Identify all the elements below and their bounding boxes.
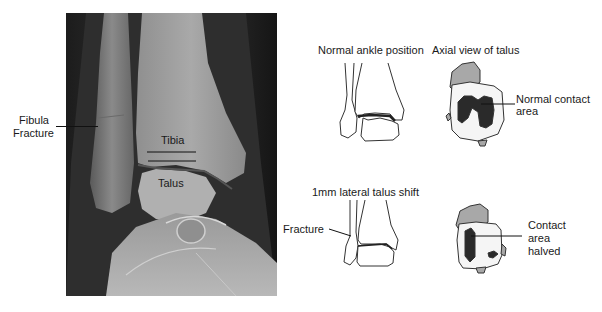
halved-contact-label-line2: area bbox=[528, 232, 550, 245]
normal-ankle-title: Normal ankle position bbox=[318, 44, 424, 57]
axial-talus-normal-drawing bbox=[446, 62, 515, 146]
halved-contact-label-line1: Contact bbox=[528, 219, 566, 232]
shifted-ankle-drawing bbox=[329, 200, 398, 266]
axial-talus-halved-drawing bbox=[456, 204, 522, 273]
normal-ankle-drawing bbox=[340, 63, 404, 141]
halved-contact-label-line3: halved bbox=[528, 245, 560, 258]
shifted-ankle-title: 1mm lateral talus shift bbox=[312, 186, 419, 199]
fracture-label: Fracture bbox=[283, 223, 324, 236]
normal-contact-label-line2: area bbox=[516, 105, 538, 118]
axial-view-title: Axial view of talus bbox=[432, 44, 519, 57]
